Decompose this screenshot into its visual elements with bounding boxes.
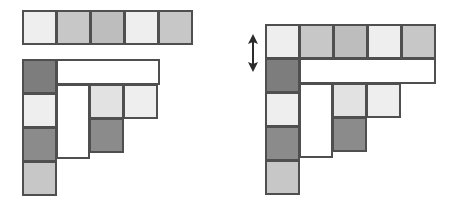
inner-cell xyxy=(89,84,124,119)
strip-cell xyxy=(90,10,125,45)
top-row-cell xyxy=(401,24,436,59)
right-figure xyxy=(227,0,454,215)
inner-cell xyxy=(332,83,367,118)
inner-cell xyxy=(366,83,401,118)
strip-cell xyxy=(56,10,91,45)
column-cell xyxy=(22,93,57,128)
left-figure xyxy=(0,0,227,215)
top-row-cell xyxy=(333,24,368,59)
empty-notch-column xyxy=(299,83,333,158)
top-row-cell xyxy=(265,24,300,59)
empty-row-bar xyxy=(56,59,160,85)
column-cell xyxy=(265,58,300,93)
column-cell xyxy=(22,127,57,162)
inner-cell xyxy=(89,118,124,153)
column-cell xyxy=(265,126,300,161)
inner-cell xyxy=(332,117,367,152)
strip-cell xyxy=(158,10,193,45)
strip-cell xyxy=(22,10,57,45)
diagram-canvas xyxy=(0,0,454,215)
column-cell xyxy=(265,160,300,195)
top-row-cell xyxy=(299,24,334,59)
strip-cell xyxy=(124,10,159,45)
column-cell xyxy=(265,92,300,127)
column-cell xyxy=(22,161,57,196)
double-arrow-icon xyxy=(246,33,260,73)
empty-row-bar xyxy=(299,58,436,84)
column-cell xyxy=(22,59,57,94)
vertical-double-arrow xyxy=(246,33,260,73)
empty-notch-column xyxy=(56,84,90,159)
top-row-cell xyxy=(367,24,402,59)
inner-cell xyxy=(123,84,158,119)
